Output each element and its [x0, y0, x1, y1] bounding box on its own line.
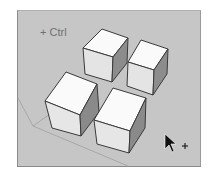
modifier-key-label: + Ctrl	[40, 26, 67, 38]
cube-front-right[interactable]	[94, 88, 146, 153]
scene-canvas[interactable]	[0, 0, 216, 178]
cube-back-right[interactable]	[127, 40, 168, 95]
arrow-cursor-with-plus-icon	[165, 134, 188, 152]
cube-front-left[interactable]	[45, 72, 99, 136]
cube-back-left[interactable]	[83, 29, 128, 82]
